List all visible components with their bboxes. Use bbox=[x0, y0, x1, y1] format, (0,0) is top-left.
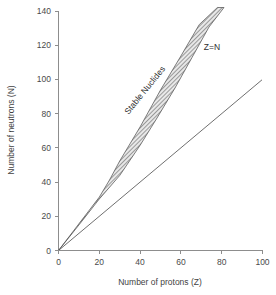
y-tick-label: 80 bbox=[42, 109, 52, 119]
y-tick-label: 100 bbox=[37, 74, 51, 84]
y-tick-label: 40 bbox=[42, 177, 52, 187]
chart-svg: 0 20 40 60 80 100 120 140 0 20 40 60 80 … bbox=[0, 0, 276, 295]
x-tick-label: 100 bbox=[255, 257, 269, 267]
x-axis-title: Number of protons (Z) bbox=[118, 277, 202, 287]
y-axis-ticks bbox=[55, 11, 58, 251]
y-tick-label: 60 bbox=[42, 143, 52, 153]
y-axis-tick-labels: 0 20 40 60 80 100 120 140 bbox=[37, 6, 51, 256]
x-tick-label: 60 bbox=[176, 257, 186, 267]
y-tick-label: 140 bbox=[37, 6, 51, 16]
x-axis-tick-labels: 0 20 40 60 80 100 bbox=[56, 257, 270, 267]
y-tick-label: 120 bbox=[37, 40, 51, 50]
x-tick-label: 40 bbox=[135, 257, 145, 267]
y-tick-label: 20 bbox=[42, 211, 52, 221]
plot-area bbox=[58, 5, 262, 250]
zn-line-label: Z=N bbox=[204, 42, 220, 52]
x-tick-label: 0 bbox=[56, 257, 61, 267]
y-axis-title: Number of neutrons (N) bbox=[6, 85, 16, 174]
x-tick-label: 80 bbox=[217, 257, 227, 267]
y-tick-label: 0 bbox=[46, 246, 51, 256]
nuclide-chart: 0 20 40 60 80 100 120 140 0 20 40 60 80 … bbox=[0, 0, 276, 295]
x-tick-label: 20 bbox=[95, 257, 105, 267]
